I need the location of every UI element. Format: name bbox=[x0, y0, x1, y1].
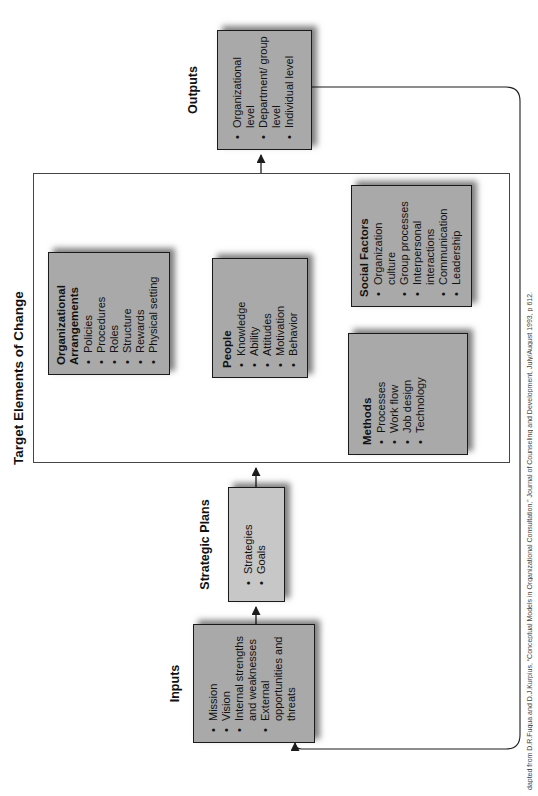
list-item: Physical setting bbox=[147, 257, 160, 366]
inputs-label: Inputs bbox=[168, 624, 182, 743]
social-factors-title: Social Factors bbox=[358, 190, 371, 297]
list-item: Department/ group level bbox=[257, 35, 283, 141]
strategic-plans-label: Strategic Plans bbox=[198, 487, 212, 602]
list-item: Roles bbox=[108, 257, 121, 366]
list-item: Internal strengths and weaknesses bbox=[233, 629, 259, 734]
rotated-diagram-canvas: Target Elements of Change Organizational… bbox=[0, 0, 538, 796]
list-item: Communication bbox=[437, 190, 450, 298]
list-item: Goals bbox=[255, 492, 268, 587]
list-item: Vision bbox=[220, 629, 233, 734]
organizational-arrangements-title: Organizational Arrangements bbox=[55, 257, 81, 365]
list-item: External opportunities and threats bbox=[259, 629, 298, 734]
list-item: Leadership bbox=[450, 190, 463, 298]
list-item: Technology bbox=[414, 338, 427, 446]
list-item: Processes bbox=[375, 338, 388, 446]
inputs-box: Mission Vision Internal strengths and we… bbox=[193, 624, 315, 743]
list-item: Strategies bbox=[242, 492, 255, 587]
social-factors-box: Social Factors Organization culture Grou… bbox=[351, 185, 472, 307]
list-item: Ability bbox=[248, 263, 261, 369]
list-item: Job design bbox=[401, 338, 414, 446]
list-item: Procedures bbox=[95, 257, 108, 366]
diagram-title: Target Elements of Change bbox=[11, 291, 26, 465]
list-item: Behavior bbox=[287, 263, 300, 369]
list-item: Motivation bbox=[274, 263, 287, 369]
list-item: Policies bbox=[82, 257, 95, 366]
list-item: Interpersonal interactions bbox=[411, 190, 437, 298]
list-item: Structure bbox=[121, 257, 134, 366]
methods-title: Methods bbox=[361, 338, 374, 445]
list-item: Knowledge bbox=[235, 263, 248, 369]
strategic-plans-box: Strategies Goals bbox=[228, 487, 285, 602]
list-item: Organizational level bbox=[231, 35, 257, 141]
outputs-label: Outputs bbox=[186, 30, 200, 150]
list-item: Work flow bbox=[388, 338, 401, 446]
list-item: Rewards bbox=[134, 257, 147, 366]
organizational-arrangements-box: Organizational Arrangements Policies Pro… bbox=[48, 252, 170, 375]
outputs-box: Organizational level Department/ group l… bbox=[217, 30, 312, 150]
source-caption: dapted from D.R.Fuqua and D.J.Kurpius, “… bbox=[526, 270, 533, 790]
list-item: Mission bbox=[207, 629, 220, 734]
methods-box: Methods Processes Work flow Job design T… bbox=[348, 333, 468, 455]
list-item: Group processes bbox=[398, 190, 411, 298]
list-item: Organization culture bbox=[372, 190, 398, 298]
list-item: Attitudes bbox=[261, 263, 274, 369]
people-title: People bbox=[221, 263, 234, 368]
people-box: People Knowledge Ability Attitudes Motiv… bbox=[212, 258, 308, 378]
list-item: Individual level bbox=[283, 35, 296, 141]
